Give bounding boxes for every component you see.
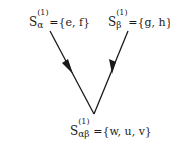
edge-beta-to-alphabeta [94, 31, 128, 114]
arrowhead-left-icon [62, 59, 73, 74]
node-symbol: S [108, 15, 116, 29]
node-subscript: β [116, 21, 121, 30]
node-s-alphabeta: S(1)αβ={w, u, v} [70, 124, 152, 138]
node-indices: (1)αβ [78, 124, 93, 138]
node-symbol: S [70, 124, 78, 138]
node-s-alpha: S(1)α={e, f} [29, 15, 90, 29]
node-subscript: α [37, 21, 43, 30]
node-superscript: (1) [37, 9, 48, 17]
node-indices: (1)β [116, 15, 128, 29]
node-symbol: S [29, 15, 37, 29]
node-superscript: (1) [116, 9, 127, 17]
node-subscript: αβ [78, 130, 89, 139]
node-indices: (1)α [37, 15, 49, 29]
node-s-beta: S(1)β={g, h} [108, 15, 170, 29]
node-superscript: (1) [78, 118, 89, 126]
node-set: ={e, f} [49, 16, 90, 29]
node-set: ={g, h} [128, 16, 170, 29]
node-set: ={w, u, v} [93, 125, 152, 138]
